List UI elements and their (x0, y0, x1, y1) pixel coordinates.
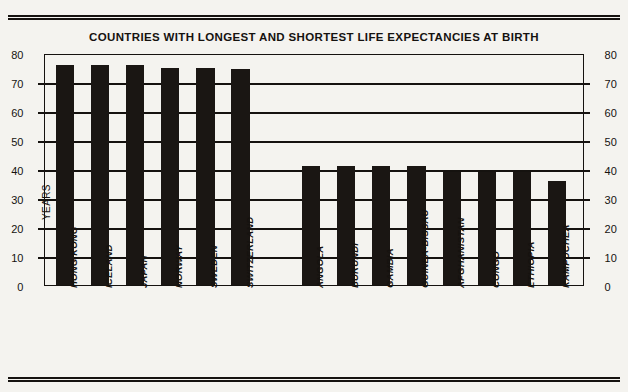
y-axis-tick-left (38, 257, 45, 259)
y-axis-tick-label-left: 20 (0, 224, 23, 235)
y-axis-tick-label-right: 30 (605, 195, 628, 206)
x-axis-category-label: ANGOLA (314, 246, 325, 288)
x-axis-category-label: KAMPUCHEA (560, 224, 571, 288)
y-axis-title: YEARS (41, 184, 52, 220)
x-axis-category-label: BURUNDI (349, 243, 360, 288)
y-axis-tick-left (38, 112, 45, 114)
x-axis-category-label: HONG KONG (68, 227, 79, 288)
x-axis-category-label: GAMBIA (384, 248, 395, 288)
chart-page: COUNTRIES WITH LONGEST AND SHORTEST LIFE… (0, 0, 628, 392)
y-axis-tick-left (38, 228, 45, 230)
y-axis-tick-right (583, 141, 590, 143)
x-axis-category-label: CONGO (490, 251, 501, 288)
x-axis-category-label: GUINEA-BISSAU (419, 209, 430, 288)
y-axis-tick-label-left: 40 (0, 166, 23, 177)
bar (126, 65, 144, 285)
x-axis-category-label: JAPAN (138, 256, 149, 289)
y-axis-tick-right (583, 257, 590, 259)
y-axis-tick-right (583, 199, 590, 201)
y-axis-tick-right (583, 83, 590, 85)
y-axis-tick-right (583, 228, 590, 230)
x-axis-category-label: SWEDEN (208, 245, 219, 288)
x-axis-category-label: ETHIOPIA (525, 242, 536, 288)
y-axis-tick-right (583, 170, 590, 172)
y-axis-tick-label-right: 80 (605, 50, 628, 61)
x-axis-category-label: SWITZERLAND (244, 217, 255, 288)
x-axis-category-label: NORWAY (173, 245, 184, 288)
y-axis-tick-label-left: 50 (0, 137, 23, 148)
bottom-double-rule (8, 377, 620, 382)
y-axis-tick-label-left: 0 (0, 282, 23, 293)
y-axis-tick-left (38, 141, 45, 143)
y-axis-tick-label-right: 20 (605, 224, 628, 235)
x-axis-category-label: AFGHANISTAN (455, 217, 466, 288)
y-axis-tick-label-left: 10 (0, 253, 23, 264)
y-axis-tick-label-right: 10 (605, 253, 628, 264)
y-axis-tick-left (38, 170, 45, 172)
y-axis-tick-right (583, 112, 590, 114)
y-axis-tick-label-left: 70 (0, 79, 23, 90)
y-axis-tick-label-right: 40 (605, 166, 628, 177)
y-axis-tick-left (38, 199, 45, 201)
y-axis-tick-left (38, 83, 45, 85)
y-axis-tick-label-right: 50 (605, 137, 628, 148)
top-double-rule (8, 15, 620, 20)
x-axis-category-labels: HONG KONGICELANDJAPANNORWAYSWEDENSWITZER… (44, 288, 584, 374)
y-axis-tick-label-right: 0 (605, 282, 628, 293)
y-axis-tick-label-left: 80 (0, 50, 23, 61)
y-axis-tick-label-left: 60 (0, 108, 23, 119)
y-axis-tick-label-right: 70 (605, 79, 628, 90)
page-title: COUNTRIES WITH LONGEST AND SHORTEST LIFE… (0, 31, 628, 43)
x-axis-category-label: ICELAND (103, 244, 114, 288)
y-axis-tick-label-left: 30 (0, 195, 23, 206)
y-axis-tick-label-right: 60 (605, 108, 628, 119)
